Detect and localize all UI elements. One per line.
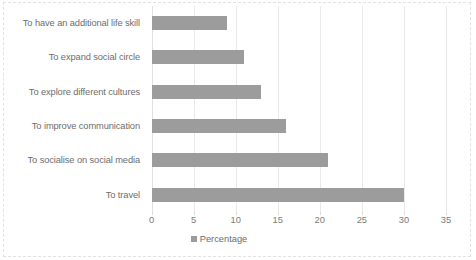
bar-chart: To have an additional life skillTo expan… <box>0 0 476 260</box>
plot-area <box>152 6 447 212</box>
tick-label-0: 0 <box>149 215 154 225</box>
category-label: To socialise on social media <box>0 143 146 177</box>
bar-row <box>152 40 447 74</box>
legend-label: Percentage <box>200 234 248 244</box>
bar-row <box>152 6 447 40</box>
category-label: To explore different cultures <box>0 75 146 109</box>
bar-series-percentage <box>152 6 447 212</box>
bar <box>152 50 245 64</box>
bar-row <box>152 143 447 177</box>
bar <box>152 85 261 99</box>
tick-label-35: 35 <box>441 215 451 225</box>
legend-item-percentage: Percentage <box>191 234 248 244</box>
bar-row <box>152 178 447 212</box>
category-label: To expand social circle <box>0 40 146 74</box>
bar <box>152 119 287 133</box>
bar <box>152 16 228 30</box>
category-label: To travel <box>0 178 146 212</box>
tick-label-15: 15 <box>273 215 283 225</box>
category-label: To improve communication <box>0 109 146 143</box>
tick-label-20: 20 <box>315 215 325 225</box>
tick-label-30: 30 <box>399 215 409 225</box>
tick-label-5: 5 <box>191 215 196 225</box>
category-axis-labels: To have an additional life skillTo expan… <box>0 6 146 212</box>
bar <box>152 188 404 202</box>
tick-label-10: 10 <box>230 215 240 225</box>
bar-row <box>152 75 447 109</box>
bar <box>152 153 329 167</box>
bar-row <box>152 109 447 143</box>
category-label: To have an additional life skill <box>0 6 146 40</box>
legend-swatch-icon <box>191 236 197 242</box>
tick-label-25: 25 <box>357 215 367 225</box>
value-axis: 05101520253035 <box>152 212 447 232</box>
gridline-35 <box>446 6 447 212</box>
chart-legend: Percentage <box>0 234 476 244</box>
